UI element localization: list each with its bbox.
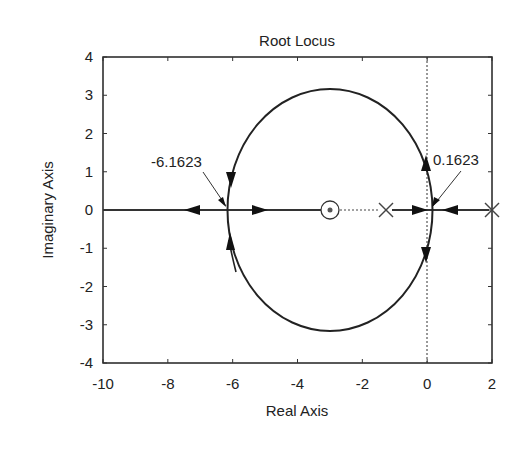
x-tick-label: -10 <box>92 375 114 392</box>
y-tick-labels: -4-3-2-101234 <box>80 48 93 371</box>
y-tick-label: -2 <box>80 278 93 295</box>
root-locus-chart: Root Locus -10-8-6-4-202 -4-3-2-101234 R… <box>0 0 527 457</box>
x-tick-label: -6 <box>226 375 239 392</box>
y-tick-label: -3 <box>80 316 93 333</box>
x-tick-label: -2 <box>356 375 369 392</box>
breakpoint-label-left: -6.1623 <box>151 153 202 170</box>
y-tick-label: 0 <box>85 201 93 218</box>
y-axis-label: Imaginary Axis <box>39 161 56 259</box>
y-tick-label: 4 <box>85 48 93 65</box>
breakpoint-label-right: 0.1623 <box>433 151 479 168</box>
y-tick-label: 1 <box>85 163 93 180</box>
y-tick-label: 3 <box>85 86 93 103</box>
chart-title: Root Locus <box>259 32 335 49</box>
x-tick-label: 2 <box>488 375 496 392</box>
x-tick-label: 0 <box>423 375 431 392</box>
y-tick-label: -4 <box>80 354 93 371</box>
y-tick-label: -1 <box>80 239 93 256</box>
x-tick-label: -4 <box>291 375 304 392</box>
zero-center-dot <box>328 208 333 213</box>
x-tick-labels: -10-8-6-4-202 <box>92 375 496 392</box>
x-axis-label: Real Axis <box>266 402 329 419</box>
x-tick-label: -8 <box>161 375 174 392</box>
y-tick-label: 2 <box>85 125 93 142</box>
